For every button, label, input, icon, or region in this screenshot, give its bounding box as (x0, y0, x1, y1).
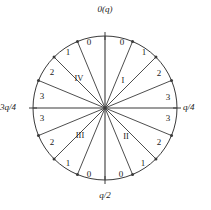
sector-q1-1: 1 (142, 47, 147, 57)
quadrant-3-label: III (76, 130, 85, 140)
sector-tick-dot (76, 40, 79, 43)
sector-tick-dot (53, 56, 56, 59)
axis-label-top: 0(q) (98, 4, 113, 14)
sector-q1-3: 3 (166, 92, 171, 102)
sector-q4-1: 1 (66, 47, 71, 57)
sector-tick-dot (154, 157, 157, 160)
sector-tick-dot (170, 79, 173, 82)
sector-q2-0: 0 (119, 169, 124, 179)
diagram-canvas (0, 0, 211, 210)
sector-q2-1: 1 (141, 158, 146, 168)
sector-tick-dot (37, 134, 40, 137)
sector-q4-0: 0 (87, 37, 92, 47)
sector-q2-2: 2 (157, 137, 162, 147)
axis-label-left: 3q/4 (0, 102, 16, 112)
sector-q4-3: 3 (40, 91, 45, 101)
sector-tick-dot (53, 157, 56, 160)
axis-label-right: q/4 (183, 102, 195, 112)
sector-q3-0: 0 (87, 169, 92, 179)
sector-q3-2: 2 (50, 137, 55, 147)
sector-q3-3: 3 (40, 113, 45, 123)
quadrant-2-label: II (123, 131, 129, 141)
quadrant-1-label: I (122, 75, 125, 85)
sector-divider-line (105, 57, 156, 108)
sector-divider-line (105, 108, 156, 159)
sector-tick-dot (131, 173, 134, 176)
sector-tick-dot (154, 56, 157, 59)
quadrant-4-label: IV (75, 73, 84, 83)
sector-tick-dot (131, 40, 134, 43)
sector-tick-dot (37, 79, 40, 82)
sector-q1-0: 0 (120, 37, 125, 47)
sector-tick-dot (170, 134, 173, 137)
sector-q3-1: 1 (66, 158, 71, 168)
sector-tick-dot (76, 173, 79, 176)
sector-q1-2: 2 (157, 68, 162, 78)
circle-sector-diagram: 0(q) q/4 q/2 3q/4 0123321001233210 IIIII… (0, 0, 211, 210)
sector-q4-2: 2 (50, 67, 55, 77)
sector-q2-3: 3 (166, 113, 171, 123)
axis-label-bottom: q/2 (99, 190, 111, 200)
